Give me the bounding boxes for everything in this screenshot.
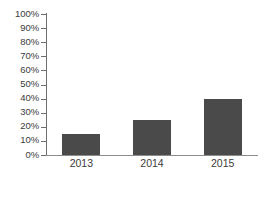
x-axis-tick-label-2015: 2015 bbox=[187, 157, 258, 170]
x-axis-line bbox=[46, 155, 258, 156]
y-axis-tick-label: 90% bbox=[1, 23, 39, 33]
x-axis-tick-label-2013: 2013 bbox=[46, 157, 117, 170]
y-axis-tick-label: 80% bbox=[1, 37, 39, 47]
y-axis-tick-label: 0% bbox=[1, 150, 39, 160]
x-axis-tick-labels: 201320142015 bbox=[46, 157, 258, 171]
bar-2013[interactable] bbox=[62, 134, 100, 155]
x-axis-tick-label-2014: 2014 bbox=[117, 157, 188, 170]
chart-caption-line-1: Percentage of Parents Who Support a bbox=[0, 200, 268, 201]
y-axis-tick-label: 70% bbox=[1, 51, 39, 61]
y-axis-tick-labels: 0%10%20%30%40%50%60%70%80%90%100% bbox=[0, 0, 39, 201]
y-axis-tick-label: 30% bbox=[1, 107, 39, 117]
bar-2014[interactable] bbox=[133, 120, 171, 155]
y-axis-tick-label: 20% bbox=[1, 121, 39, 131]
y-axis-tick-label: 40% bbox=[1, 93, 39, 103]
bars-layer bbox=[46, 14, 258, 155]
y-axis-tick-label: 100% bbox=[1, 9, 39, 19]
bar-2015[interactable] bbox=[204, 99, 242, 155]
bar-chart-figure: 0%10%20%30%40%50%60%70%80%90%100% 201320… bbox=[0, 0, 268, 201]
chart-caption: Percentage of Parents Who Support a Prev… bbox=[0, 172, 268, 201]
y-axis-tick-label: 50% bbox=[1, 79, 39, 89]
y-axis-tick-label: 10% bbox=[1, 135, 39, 145]
y-axis-tick-label: 60% bbox=[1, 65, 39, 75]
